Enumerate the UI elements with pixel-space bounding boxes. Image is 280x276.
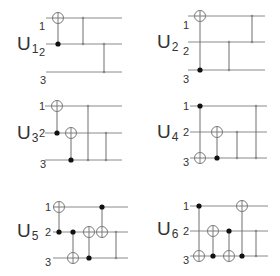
qubit-label-3: 3 — [40, 158, 46, 170]
cz-dot-icon — [87, 105, 90, 108]
qubit-label-3: 3 — [183, 73, 189, 85]
qubit-label-1: 1 — [45, 201, 51, 213]
cnot-gate — [212, 127, 223, 161]
control-dot-icon — [68, 157, 73, 162]
control-dot-icon — [226, 228, 231, 233]
control-dot-icon — [99, 204, 104, 209]
target-xor-icon — [97, 227, 108, 238]
target-xor-icon — [84, 227, 95, 238]
qubit-label-2: 2 — [39, 127, 45, 139]
control-dot-icon — [197, 103, 202, 108]
quantum-circuit-diagram: U1123U2123U3123U4123U5123U6123 — [0, 0, 280, 276]
target-xor-icon — [224, 251, 235, 262]
cnot-gate — [195, 103, 206, 163]
unitary-label: U3 — [17, 122, 39, 145]
qubit-label-1: 1 — [39, 100, 45, 112]
cz-dot-icon — [255, 255, 258, 258]
target-xor-icon — [208, 226, 219, 237]
control-dot-icon — [56, 229, 61, 234]
target-xor-icon — [194, 251, 205, 262]
qubit-label-2: 2 — [183, 45, 189, 57]
target-xor-icon — [53, 13, 64, 24]
cnot-gate — [84, 227, 95, 261]
circuit-panel-u3: U3123 — [17, 100, 122, 170]
qubit-label-3: 3 — [45, 256, 51, 268]
cz-dot-icon — [255, 230, 258, 233]
cz-gate — [82, 17, 85, 46]
qubit-label-2: 2 — [183, 126, 189, 138]
cnot-gate — [53, 13, 64, 47]
circuit-panel-u5: U5123 — [17, 201, 128, 268]
unitary-subscript: 4 — [172, 130, 179, 144]
qubit-label-3: 3 — [40, 74, 46, 86]
target-xor-icon — [66, 128, 77, 139]
cz-gate — [115, 231, 118, 260]
circuit-panel-u6: U6123 — [157, 200, 268, 266]
cz-dot-icon — [251, 41, 254, 44]
qubit-label-1: 1 — [39, 20, 45, 32]
qubit-label-3: 3 — [183, 156, 189, 168]
cnot-gate — [54, 202, 65, 235]
qubit-label-3: 3 — [183, 254, 189, 266]
unitary-label: U4 — [157, 121, 179, 144]
unitary-subscript: 6 — [172, 227, 179, 241]
qubit-label-2: 2 — [45, 226, 51, 238]
cz-dot-icon — [87, 159, 90, 162]
unitary-label: U1 — [17, 33, 39, 56]
unitary-subscript: 3 — [32, 131, 39, 145]
cz-gate — [105, 132, 108, 162]
unitary-label: U5 — [17, 220, 39, 243]
cz-dot-icon — [251, 15, 254, 18]
qubit-label-2: 2 — [39, 46, 45, 58]
circuit-panel-u1: U1123 — [17, 13, 122, 87]
unitary-subscript: 2 — [172, 40, 179, 54]
cnot-gate — [237, 201, 248, 259]
cnot-gate — [97, 204, 108, 237]
unitary-label: U6 — [157, 218, 179, 241]
cz-dot-icon — [236, 131, 239, 134]
control-dot-icon — [239, 253, 244, 258]
cz-dot-icon — [82, 43, 85, 46]
target-xor-icon — [52, 101, 63, 112]
control-dot-icon — [197, 67, 202, 72]
cnot-gate — [224, 228, 235, 261]
cz-dot-icon — [255, 157, 258, 160]
cz-dot-icon — [236, 157, 239, 160]
cnot-gate — [208, 226, 219, 259]
cz-dot-icon — [105, 132, 108, 135]
cnot-gate — [68, 229, 79, 263]
target-xor-icon — [68, 253, 79, 264]
cz-dot-icon — [103, 71, 106, 74]
cz-dot-icon — [82, 17, 85, 20]
circuit-panel-u2: U2123 — [157, 11, 265, 86]
cz-dot-icon — [103, 43, 106, 46]
cz-gate — [103, 43, 106, 74]
control-dot-icon — [54, 130, 59, 135]
qubit-label-1: 1 — [183, 19, 189, 31]
cnot-gate — [194, 203, 205, 261]
qubit-label-1: 1 — [183, 100, 189, 112]
cz-gate — [251, 15, 254, 44]
cz-dot-icon — [228, 41, 231, 44]
target-xor-icon — [212, 127, 223, 138]
cz-dot-icon — [115, 257, 118, 260]
target-xor-icon — [195, 153, 206, 164]
cz-gate — [255, 230, 258, 258]
control-dot-icon — [196, 203, 201, 208]
circuit-panel-u4: U4123 — [157, 100, 267, 168]
control-dot-icon — [214, 155, 219, 160]
target-xor-icon — [54, 202, 65, 213]
target-xor-icon — [195, 11, 206, 22]
cz-dot-icon — [228, 69, 231, 72]
cnot-gate — [66, 128, 77, 163]
cz-dot-icon — [115, 231, 118, 234]
qubit-label-1: 1 — [183, 200, 189, 212]
cnot-gate — [52, 101, 63, 136]
unitary-subscript: 1 — [32, 42, 39, 56]
qubit-label-2: 2 — [183, 225, 189, 237]
cz-gate — [236, 131, 239, 160]
control-dot-icon — [55, 41, 60, 46]
cz-gate — [228, 41, 231, 72]
target-xor-icon — [237, 201, 248, 212]
control-dot-icon — [210, 253, 215, 258]
